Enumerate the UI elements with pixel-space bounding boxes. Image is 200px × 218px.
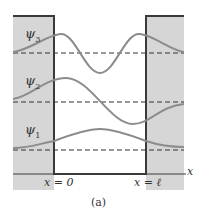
right-wall-label: x = ℓ — [134, 176, 161, 189]
figure-caption: (a) — [91, 196, 106, 209]
x-axis-label: x — [187, 165, 193, 178]
left-wall-label: x = 0 — [44, 176, 73, 189]
psi1-label: ψ1 — [25, 122, 40, 140]
right-barrier-region — [146, 16, 184, 190]
psi3-label: ψ3 — [25, 26, 40, 44]
psi2-label: ψ2 — [25, 73, 40, 91]
